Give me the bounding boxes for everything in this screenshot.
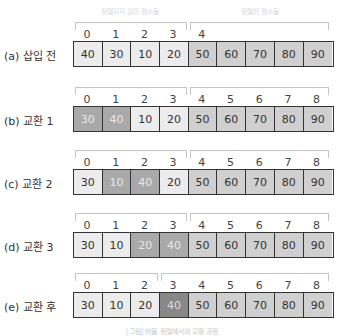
index-label: 4 [188,219,216,232]
index-label: 0 [73,156,101,169]
array-cell: 90 [304,170,333,194]
array-cell: 80 [275,170,304,194]
index-label: 4 [188,156,216,169]
array-cells: 301040205060708090 [73,169,334,195]
array-cell: 10 [103,170,132,194]
index-label: 5 [217,219,245,232]
array-cell: 50 [189,293,218,317]
array-cell: 80 [275,107,304,131]
array-cell: 30 [74,233,103,257]
array-cell: 90 [304,293,333,317]
array-cells: 403010205060708090 [73,41,334,67]
array-cell: 40 [160,233,189,257]
array-cell: 70 [246,293,275,317]
index-label: 1 [102,279,130,292]
index-label: 6 [245,93,273,106]
array-cell: 80 [275,233,304,257]
index-label: 0 [73,279,101,292]
index-label: 3 [159,156,187,169]
index-label: 2 [130,279,158,292]
array-cell: 60 [217,293,246,317]
index-label: 3 [159,279,187,292]
index-label: 1 [102,93,130,106]
header-sorted-label: 정렬된 원소들 [215,6,305,16]
array-cell: 10 [131,107,160,131]
array-cell: 20 [131,293,160,317]
array-cell: 50 [189,42,218,66]
index-label: 8 [303,219,331,232]
array-cell: 90 [304,107,333,131]
array-cell: 60 [217,107,246,131]
array-cell: 70 [246,170,275,194]
row-label: (d) 교환 3 [4,238,54,254]
array-cell: 20 [160,42,189,66]
index-label: 6 [245,279,273,292]
array-row: (a) 삽입 전01234403010205060708090 [0,22,344,82]
index-label: 3 [159,28,187,41]
index-label: 7 [274,93,302,106]
array-cell: 30 [103,42,132,66]
array-cell: 40 [160,293,189,317]
index-label: 8 [303,156,331,169]
array-cell: 10 [131,42,160,66]
row-label: (e) 교환 후 [4,298,56,314]
index-label: 3 [159,219,187,232]
figure-caption: [그림] 버블 정렬에서의 교환 과정 [0,326,344,336]
array-cell: 30 [74,293,103,317]
array-cell: 50 [189,107,218,131]
index-label: 1 [102,28,130,41]
array-cell: 80 [275,293,304,317]
array-cell: 90 [304,233,333,257]
array-cell: 60 [217,233,246,257]
array-row: (e) 교환 후012345678301020405060708090 [0,273,344,333]
array-cell: 70 [246,107,275,131]
array-cell: 20 [131,233,160,257]
array-cell: 50 [189,170,218,194]
index-label: 3 [159,93,187,106]
array-row: (b) 교환 1012345678304010205060708090 [0,87,344,147]
index-label: 6 [245,219,273,232]
row-label: (a) 삽입 전 [4,47,56,63]
array-cell: 40 [74,42,103,66]
array-row: (c) 교환 2012345678301040205060708090 [0,150,344,210]
row-label: (c) 교환 2 [4,175,53,191]
index-label: 2 [130,93,158,106]
index-label: 4 [188,279,216,292]
array-cell: 20 [160,170,189,194]
array-cell: 30 [74,170,103,194]
index-label: 0 [73,93,101,106]
array-cell: 50 [189,233,218,257]
index-label: 5 [217,279,245,292]
index-label: 5 [217,156,245,169]
index-label: 1 [102,219,130,232]
index-label: 1 [102,156,130,169]
array-cell: 10 [103,233,132,257]
array-cell: 70 [246,233,275,257]
array-cells: 304010205060708090 [73,106,334,132]
index-label: 2 [130,156,158,169]
array-cell: 30 [74,107,103,131]
array-cell: 90 [304,42,333,66]
index-label: 0 [73,219,101,232]
index-label: 4 [188,28,216,41]
array-cell: 70 [246,42,275,66]
array-cell: 10 [103,293,132,317]
array-cell: 60 [217,42,246,66]
array-row: (d) 교환 3012345678301020405060708090 [0,213,344,273]
array-cell: 40 [131,170,160,194]
index-label: 4 [188,93,216,106]
index-label: 8 [303,279,331,292]
index-label: 7 [274,156,302,169]
index-label: 7 [274,219,302,232]
array-cell: 20 [160,107,189,131]
array-cell: 40 [103,107,132,131]
index-label: 5 [217,93,245,106]
array-cells: 301020405060708090 [73,292,334,318]
row-label: (b) 교환 1 [4,112,54,128]
array-cell: 80 [275,42,304,66]
index-label: 2 [130,219,158,232]
index-label: 2 [130,28,158,41]
index-label: 8 [303,93,331,106]
index-label: 6 [245,156,273,169]
index-label: 0 [73,28,101,41]
